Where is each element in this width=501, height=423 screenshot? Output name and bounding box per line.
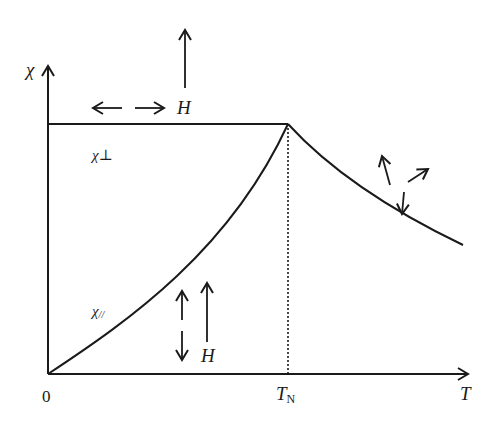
paramagnetic-curve [288, 124, 463, 245]
chi-parallel-curve [48, 124, 288, 374]
random-spin-arrow-1-icon [382, 156, 390, 185]
neel-temperature-label: TN [276, 383, 296, 406]
chi-parallel-label: χ// [90, 303, 105, 320]
random-spin-arrow-3-icon [402, 192, 404, 214]
susceptibility-diagram: χ T 0 TN χ⊥ χ// H H [0, 0, 501, 423]
field-label-parallel: H [200, 345, 216, 366]
field-label-perp: H [176, 97, 192, 118]
x-axis-label: T [460, 383, 472, 404]
origin-label: 0 [42, 387, 51, 406]
chi-perp-label: χ⊥ [90, 147, 113, 163]
random-spin-arrow-2-icon [408, 169, 428, 182]
y-axis-label: χ [24, 59, 35, 80]
